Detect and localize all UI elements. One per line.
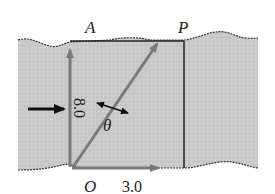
label-river-speed: 3.0 bbox=[122, 178, 142, 194]
label-o: O bbox=[84, 177, 96, 194]
river-water bbox=[18, 32, 258, 170]
label-boat-speed: 8.0 bbox=[71, 98, 88, 118]
label-p: P bbox=[177, 18, 188, 37]
label-a: A bbox=[84, 18, 96, 37]
label-theta: θ bbox=[103, 116, 111, 135]
river-diagram: A P O 3.0 θ 8.0 bbox=[0, 0, 275, 194]
